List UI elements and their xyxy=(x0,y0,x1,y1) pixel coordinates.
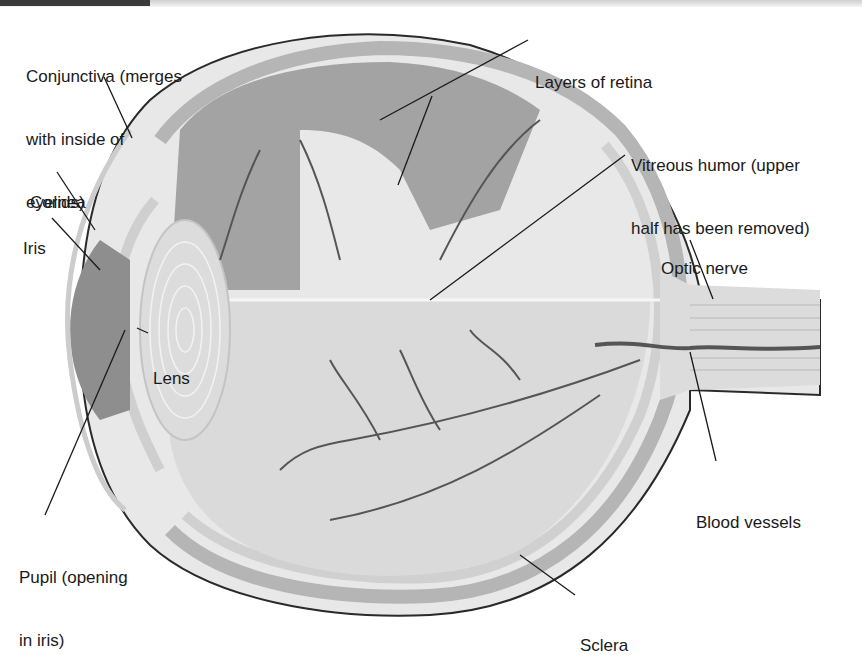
label-line: Vitreous humor (upper xyxy=(631,155,810,176)
label-sclera: Sclera xyxy=(580,593,628,655)
label-line: Iris xyxy=(23,238,46,259)
label-pupil: Pupil (opening in iris) xyxy=(19,525,128,655)
label-line: Optic nerve xyxy=(661,258,748,279)
label-line: Sclera xyxy=(580,635,628,655)
label-blood-vessels: Blood vessels xyxy=(696,470,801,554)
label-line: with inside of xyxy=(26,129,182,150)
label-iris: Iris xyxy=(23,196,46,280)
label-line: Lens xyxy=(153,368,190,389)
label-line: Layers of retina xyxy=(535,72,652,93)
label-line: Conjunctiva (merges xyxy=(26,66,182,87)
label-line: Blood vessels xyxy=(696,512,801,533)
label-line: in iris) xyxy=(19,630,128,651)
label-layers-of-retina: Layers of retina xyxy=(535,30,652,114)
label-line: Pupil (opening xyxy=(19,567,128,588)
label-lens: Lens xyxy=(153,326,190,410)
label-optic-nerve: Optic nerve xyxy=(661,216,748,300)
iris-shape xyxy=(70,240,130,420)
